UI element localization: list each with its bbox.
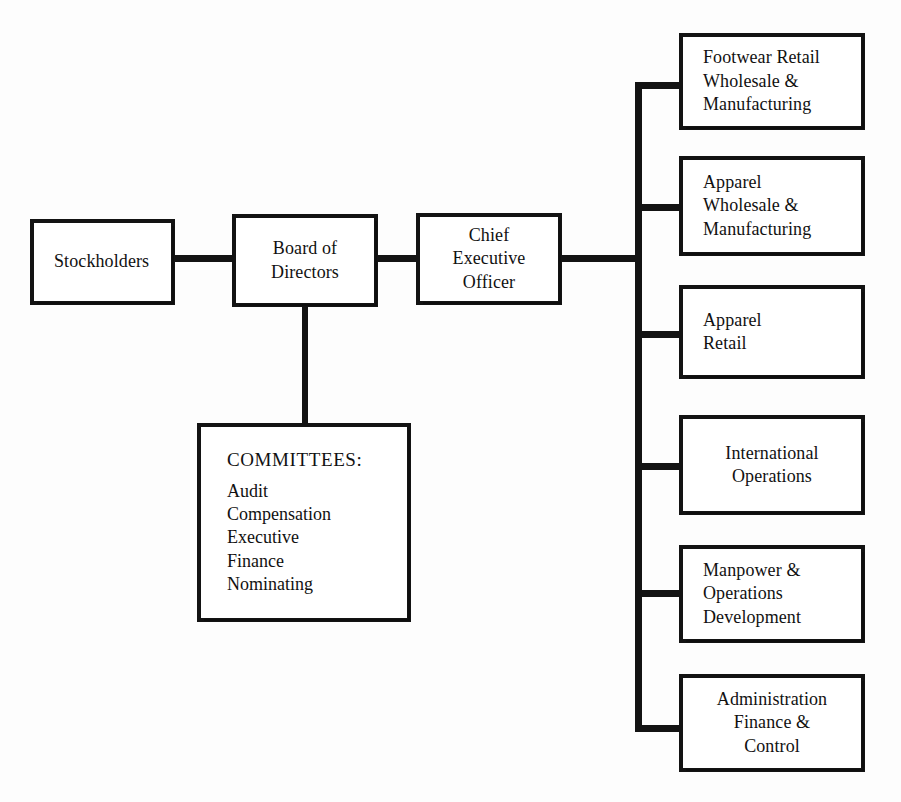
connector-trunk-to-division-2 [635, 204, 681, 211]
committees-heading: COMMITTEES: [227, 449, 407, 471]
node-board-of-directors-label: Board of Directors [236, 237, 374, 284]
node-division-footwear-retail-wholesale-manufacturing[interactable]: Footwear Retail Wholesale & Manufacturin… [679, 33, 865, 130]
connector-board-to-committees [302, 305, 308, 423]
committees-body: COMMITTEES: Audit Compensation Executive… [201, 449, 407, 595]
connector-trunk-to-division-3 [635, 331, 681, 338]
committees-list: Audit Compensation Executive Finance Nom… [227, 480, 407, 595]
node-division-label: International Operations [683, 442, 861, 489]
node-division-apparel-wholesale-manufacturing[interactable]: Apparel Wholesale & Manufacturing [679, 156, 865, 256]
node-division-apparel-retail[interactable]: Apparel Retail [679, 285, 865, 379]
connector-ceo-to-trunk [562, 255, 642, 262]
org-chart-canvas: Stockholders Board of Directors Chief Ex… [0, 0, 901, 802]
node-division-manpower-operations-development[interactable]: Manpower & Operations Development [679, 545, 865, 643]
connector-trunk-to-division-4 [635, 463, 681, 470]
node-division-label: Manpower & Operations Development [683, 559, 861, 629]
node-division-label: Footwear Retail Wholesale & Manufacturin… [683, 46, 861, 116]
node-stockholders-label: Stockholders [34, 250, 171, 273]
node-chief-executive-officer[interactable]: Chief Executive Officer [416, 213, 562, 305]
node-stockholders[interactable]: Stockholders [30, 219, 175, 305]
node-chief-executive-officer-label: Chief Executive Officer [420, 224, 558, 294]
connector-trunk-to-division-1 [635, 82, 681, 89]
node-division-administration-finance-control[interactable]: Administration Finance & Control [679, 674, 865, 772]
connector-trunk-to-division-5 [635, 590, 681, 597]
node-division-label: Apparel Retail [683, 309, 861, 356]
node-division-label: Administration Finance & Control [683, 688, 861, 758]
node-board-of-directors[interactable]: Board of Directors [232, 214, 378, 307]
connector-division-trunk [635, 82, 642, 732]
node-division-international-operations[interactable]: International Operations [679, 415, 865, 515]
node-division-label: Apparel Wholesale & Manufacturing [683, 171, 861, 241]
node-committees[interactable]: COMMITTEES: Audit Compensation Executive… [197, 423, 411, 622]
connector-trunk-to-division-6 [635, 725, 681, 732]
connector-stockholders-to-board [173, 255, 234, 262]
